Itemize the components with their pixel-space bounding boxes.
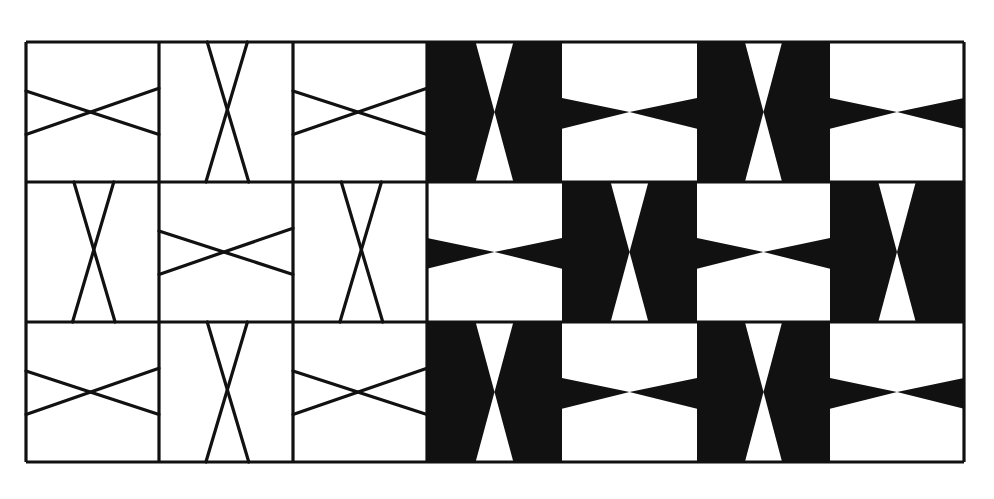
filled-tile [830, 322, 964, 462]
filled-tile [697, 42, 830, 182]
filled-tile [562, 322, 697, 462]
outline-tile [293, 88, 427, 134]
outline-tile [159, 228, 293, 274]
outline-tile [26, 88, 159, 134]
filled-tile [562, 42, 697, 182]
tile-pattern-svg [0, 0, 994, 499]
filled-tile [830, 182, 964, 322]
filled-tile [427, 42, 562, 182]
outline-tile [340, 182, 383, 322]
outline-tile [293, 368, 427, 414]
outline-tile [73, 182, 116, 322]
filled-tile [697, 182, 830, 322]
filled-tile [427, 182, 562, 322]
outline-tile [206, 322, 249, 462]
outline-tile [206, 42, 249, 182]
outline-tile [26, 368, 159, 414]
tile-pattern-figure [0, 0, 994, 499]
filled-tiles-group [427, 42, 964, 462]
filled-tile [830, 42, 964, 182]
filled-tile [562, 182, 697, 322]
outline-tiles-group [26, 42, 427, 462]
filled-tile [427, 322, 562, 462]
filled-tile [697, 322, 830, 462]
